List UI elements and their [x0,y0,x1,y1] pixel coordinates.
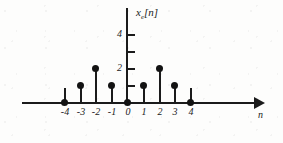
x-tick-label--2: -2 [88,106,104,117]
x-axis-arrow-icon [254,97,265,109]
stem-plot-figure: 2 4 -4 -3 -2 -1 0 1 2 3 4 xe[n] n [0,0,283,143]
stem-marker-2 [156,65,163,72]
x-tick-label-3: 3 [167,106,183,117]
y-tick-4 [128,34,135,36]
signal-label: xe[n] [136,6,158,21]
stem-marker-1 [140,82,147,89]
x-tick-label-2: 2 [152,106,168,117]
scan-grain-overlay [0,0,283,143]
stem-marker--3 [77,82,84,89]
y-tick-3 [128,51,135,53]
stem-marker-0 [124,99,131,106]
y-tick-label-4: 4 [108,28,122,39]
stem-marker-4 [187,99,194,106]
x-axis-line [22,102,256,104]
x-tick-label--1: -1 [104,106,120,117]
y-axis-line [126,8,128,104]
x-tick-label-4: 4 [183,106,199,117]
y-tick-1 [128,85,135,87]
x-tick-label-1: 1 [136,106,152,117]
stem-marker--4 [61,99,68,106]
y-tick-label-2: 2 [108,62,122,73]
x-tick-label--4: -4 [57,106,73,117]
stem-line-2 [159,68,161,103]
x-axis-name: n [258,109,263,120]
stem-line--2 [95,68,97,103]
x-tick-label--3: -3 [73,106,89,117]
x-tick-label-0: 0 [120,106,136,117]
stem-marker--1 [108,82,115,89]
stem-marker--2 [92,65,99,72]
y-tick-2 [128,68,135,70]
signal-label-index: [n] [144,6,158,18]
stem-marker-3 [171,82,178,89]
